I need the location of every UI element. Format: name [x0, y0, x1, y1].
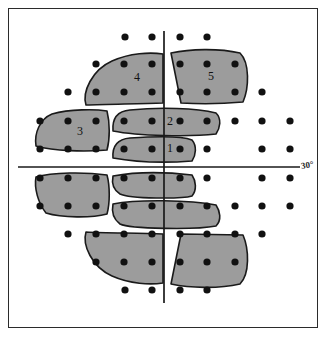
- test-point[interactable]: [203, 33, 210, 40]
- test-point[interactable]: [176, 117, 183, 124]
- test-point[interactable]: [203, 88, 210, 95]
- test-point[interactable]: [258, 117, 265, 124]
- test-point[interactable]: [64, 117, 71, 124]
- test-point[interactable]: [176, 230, 183, 237]
- test-point[interactable]: [231, 117, 238, 124]
- test-point[interactable]: [148, 174, 155, 181]
- test-point[interactable]: [148, 230, 155, 237]
- test-point[interactable]: [36, 174, 43, 181]
- test-point[interactable]: [203, 117, 210, 124]
- test-point[interactable]: [176, 174, 183, 181]
- test-point[interactable]: [258, 230, 265, 237]
- test-point[interactable]: [203, 145, 210, 152]
- axis-degree-label: 30°: [300, 159, 314, 171]
- test-point[interactable]: [203, 202, 210, 209]
- test-point[interactable]: [148, 258, 155, 265]
- test-point[interactable]: [258, 202, 265, 209]
- test-point[interactable]: [203, 230, 210, 237]
- test-point[interactable]: [120, 202, 127, 209]
- test-point[interactable]: [92, 258, 99, 265]
- test-point[interactable]: [148, 33, 155, 40]
- test-point[interactable]: [148, 88, 155, 95]
- test-point[interactable]: [231, 230, 238, 237]
- test-point[interactable]: [203, 258, 210, 265]
- test-point[interactable]: [176, 33, 183, 40]
- test-point[interactable]: [176, 60, 183, 67]
- shaded-zone-group: [35, 50, 247, 288]
- test-point[interactable]: [148, 145, 155, 152]
- test-point[interactable]: [92, 174, 99, 181]
- test-point[interactable]: [92, 60, 99, 67]
- test-point[interactable]: [92, 117, 99, 124]
- test-point[interactable]: [64, 202, 71, 209]
- test-point[interactable]: [64, 88, 71, 95]
- test-point[interactable]: [203, 60, 210, 67]
- test-point[interactable]: [64, 230, 71, 237]
- zone-label-4: 4: [134, 70, 140, 84]
- zone-label-3: 3: [77, 124, 83, 138]
- zone-label-2: 2: [167, 114, 173, 128]
- test-point[interactable]: [120, 117, 127, 124]
- test-point[interactable]: [176, 286, 183, 293]
- test-point[interactable]: [148, 117, 155, 124]
- test-point[interactable]: [286, 145, 293, 152]
- test-point[interactable]: [176, 202, 183, 209]
- zone-label-5: 5: [208, 69, 214, 83]
- test-point[interactable]: [231, 88, 238, 95]
- test-point[interactable]: [92, 88, 99, 95]
- test-point[interactable]: [120, 88, 127, 95]
- test-point[interactable]: [120, 174, 127, 181]
- test-point[interactable]: [176, 258, 183, 265]
- test-point[interactable]: [92, 202, 99, 209]
- test-point[interactable]: [231, 60, 238, 67]
- test-point[interactable]: [121, 33, 128, 40]
- test-point[interactable]: [120, 60, 127, 67]
- test-point-group: [36, 33, 293, 293]
- test-point[interactable]: [36, 202, 43, 209]
- test-point[interactable]: [231, 258, 238, 265]
- test-point[interactable]: [286, 174, 293, 181]
- zone-label-1: 1: [167, 141, 173, 155]
- test-point[interactable]: [286, 117, 293, 124]
- test-point[interactable]: [64, 145, 71, 152]
- test-point[interactable]: [148, 286, 155, 293]
- test-point[interactable]: [120, 230, 127, 237]
- test-point[interactable]: [148, 60, 155, 67]
- test-point[interactable]: [148, 202, 155, 209]
- test-point[interactable]: [36, 117, 43, 124]
- test-point[interactable]: [121, 286, 128, 293]
- visual-field-figure: 1 2 3 4 5 30°: [0, 0, 329, 339]
- test-point[interactable]: [36, 145, 43, 152]
- test-point[interactable]: [92, 145, 99, 152]
- test-point[interactable]: [176, 88, 183, 95]
- shaded-zone-bottom-left[interactable]: [85, 232, 163, 284]
- test-point[interactable]: [203, 286, 210, 293]
- test-point[interactable]: [258, 174, 265, 181]
- test-point[interactable]: [120, 145, 127, 152]
- test-point[interactable]: [120, 258, 127, 265]
- visual-field-plot: 1 2 3 4 5: [0, 0, 329, 339]
- test-point[interactable]: [176, 145, 183, 152]
- shaded-zone-3[interactable]: [36, 110, 110, 151]
- test-point[interactable]: [64, 174, 71, 181]
- test-point[interactable]: [92, 230, 99, 237]
- test-point[interactable]: [231, 202, 238, 209]
- test-point[interactable]: [286, 202, 293, 209]
- test-point[interactable]: [258, 88, 265, 95]
- test-point[interactable]: [203, 174, 210, 181]
- test-point[interactable]: [258, 145, 265, 152]
